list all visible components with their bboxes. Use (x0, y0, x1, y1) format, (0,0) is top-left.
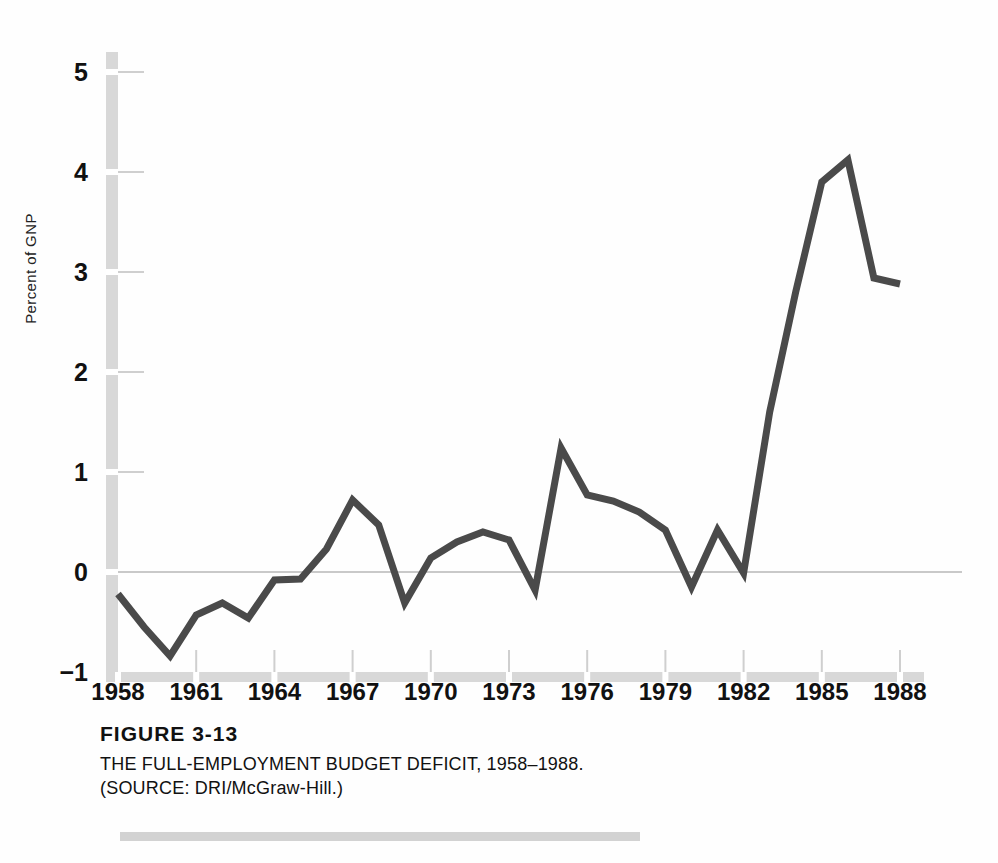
figure-title: THE FULL-EMPLOYMENT BUDGET DEFICIT, 1958… (100, 754, 960, 775)
x-axis-tick-label: 1976 (560, 678, 613, 706)
y-axis-bar (106, 52, 118, 682)
x-axis-tick-label: 1982 (717, 678, 770, 706)
y-tick-gap (106, 169, 118, 175)
x-axis-tick-label: 1988 (873, 678, 926, 706)
tick-mark-layer (118, 72, 900, 672)
chart-svg (0, 0, 998, 720)
y-axis-tick-label: 4 (54, 158, 88, 187)
caption-rule (120, 832, 640, 841)
x-axis-tick-label: 1970 (404, 678, 457, 706)
y-axis-title: Percent of GNP (22, 169, 39, 369)
axis-layer (106, 52, 924, 682)
y-axis-tick-label: −1 (54, 658, 88, 687)
source-text: (SOURCE: DRI/McGraw-Hill.) (100, 778, 343, 798)
x-axis-tick-label: 1979 (639, 678, 692, 706)
y-axis-tick-label: 3 (54, 258, 88, 287)
y-axis-tick-label: 5 (54, 58, 88, 87)
y-tick-gap (106, 69, 118, 75)
y-tick-gap (106, 469, 118, 475)
figure-number: FIGURE 3-13 (100, 722, 960, 746)
figure-container: Percent of GNP 543210−1 1958196119641967… (0, 0, 998, 863)
y-axis-tick-label: 1 (54, 458, 88, 487)
y-tick-gap (106, 269, 118, 275)
x-axis-tick-label: 1985 (795, 678, 848, 706)
y-axis-tick-labels: 543210−1 (44, 0, 88, 720)
x-axis-tick-label: 1967 (326, 678, 379, 706)
data-series-line (118, 160, 900, 656)
x-axis-tick-label: 1958 (91, 678, 144, 706)
y-tick-gap (106, 569, 118, 575)
y-tick-gap (106, 369, 118, 375)
y-axis-tick-label: 0 (54, 558, 88, 587)
figure-caption: FIGURE 3-13 THE FULL-EMPLOYMENT BUDGET D… (100, 722, 960, 802)
x-axis-tick-label: 1964 (248, 678, 301, 706)
figure-source: (SOURCE: DRI/McGraw-Hill.) (100, 778, 960, 799)
chart-plot-area: Percent of GNP 543210−1 1958196119641967… (0, 0, 998, 720)
x-axis-tick-label: 1973 (482, 678, 535, 706)
y-axis-tick-label: 2 (54, 358, 88, 387)
x-axis-tick-label: 1961 (169, 678, 222, 706)
